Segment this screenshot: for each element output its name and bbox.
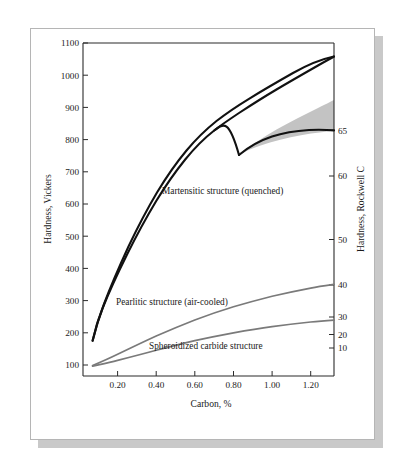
series-martensite-upper <box>93 126 239 341</box>
left-axis-ticks <box>83 43 88 365</box>
x-axis-ticks <box>118 371 311 376</box>
figure-card: 1100 1000 900 800 700 600 500 400 300 20… <box>30 28 375 440</box>
left-tick-label: 400 <box>65 264 79 274</box>
left-tick-label: 900 <box>65 103 79 113</box>
left-tick-label: 100 <box>65 360 79 370</box>
right-axis-ticks <box>329 130 334 348</box>
y-axis-title: Hardness, Vickers <box>42 174 53 244</box>
annotation-martensitic: Martensitic structure (quenched) <box>162 186 283 197</box>
right-tick-label: 10 <box>338 343 348 353</box>
x-tick-label: 0.60 <box>187 380 203 390</box>
x-tick-label: 0.40 <box>148 380 164 390</box>
hardness-vs-carbon-chart: 1100 1000 900 800 700 600 500 400 300 20… <box>31 29 376 441</box>
right-tick-label: 40 <box>338 280 348 290</box>
right-tick-label: 30 <box>338 312 348 322</box>
left-tick-label: 600 <box>65 199 79 209</box>
right-tick-label: 65 <box>338 126 348 136</box>
left-tick-label: 500 <box>65 232 79 242</box>
left-tick-label: 1100 <box>61 38 79 48</box>
annotation-spheroidized: Spheroidized carbide structure <box>149 341 263 351</box>
left-tick-label: 800 <box>65 135 79 145</box>
x-tick-label: 1.20 <box>303 380 319 390</box>
right-axis-tick-labels: 65 60 50 40 30 20 10 <box>338 126 348 354</box>
x-axis-title: Carbon, % <box>190 398 231 409</box>
x-tick-label: 1.00 <box>264 380 280 390</box>
annotation-pearlitic: Pearlitic structure (air-cooled) <box>116 297 228 308</box>
left-tick-label: 1000 <box>61 71 80 81</box>
x-axis-tick-labels: 0.20 0.40 0.60 0.80 1.00 1.20 <box>110 380 320 390</box>
left-axis-tick-labels: 1100 1000 900 800 700 600 500 400 300 20… <box>61 38 80 370</box>
chart-svg: 1100 1000 900 800 700 600 500 400 300 20… <box>31 29 376 441</box>
series-martensite-lower <box>239 130 334 155</box>
left-tick-label: 300 <box>65 296 79 306</box>
left-tick-label: 200 <box>65 328 79 338</box>
right-tick-label: 20 <box>338 330 348 340</box>
page-root: 1100 1000 900 800 700 600 500 400 300 20… <box>0 0 417 463</box>
x-tick-label: 0.80 <box>225 380 241 390</box>
y2-axis-title: Hardness, Rockwell C <box>355 166 366 252</box>
x-tick-label: 0.20 <box>110 380 126 390</box>
left-tick-label: 700 <box>65 167 79 177</box>
martensite-shaded-band <box>239 100 334 155</box>
right-tick-label: 60 <box>338 171 348 181</box>
right-tick-label: 50 <box>338 235 348 245</box>
